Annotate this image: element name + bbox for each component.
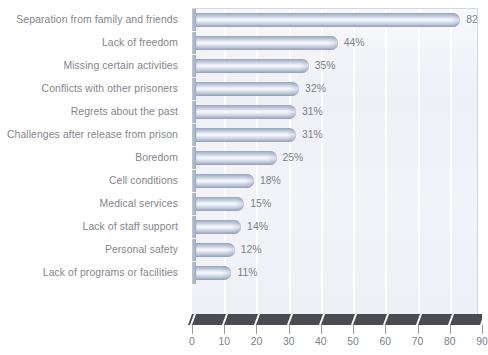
category-label: Medical services xyxy=(100,192,178,215)
bar-row: 44% xyxy=(192,32,478,55)
category-label: Lack of staff support xyxy=(83,215,178,238)
bar xyxy=(196,36,338,50)
x-tick-label: 20 xyxy=(251,336,263,347)
bar xyxy=(196,13,460,27)
bar xyxy=(196,128,296,142)
bar-series: 82%44%35%32%31%31%25%18%15%14%12%11% xyxy=(192,9,477,314)
bar xyxy=(196,151,277,165)
category-label: Regrets about the past xyxy=(71,100,178,123)
bar xyxy=(196,59,309,73)
bar-value-label: 82% xyxy=(466,13,478,27)
category-axis-labels: Separation from family and friendsLack o… xyxy=(0,8,186,308)
bar-row: 12% xyxy=(192,239,478,262)
x-tick-label: 90 xyxy=(476,336,488,347)
x-tick-label: 60 xyxy=(380,336,392,347)
bar xyxy=(196,82,299,96)
category-label: Lack of freedom xyxy=(102,31,178,54)
bar-row: 14% xyxy=(192,216,478,239)
category-label: Boredom xyxy=(135,146,178,169)
bar-value-label: 25% xyxy=(283,151,304,165)
bar-value-label: 12% xyxy=(241,243,262,257)
bar-value-label: 31% xyxy=(302,128,323,142)
x-tick-label: 50 xyxy=(347,336,359,347)
category-label: Missing certain activities xyxy=(63,54,178,77)
baseplate-top xyxy=(188,314,482,330)
x-tick-label: 10 xyxy=(218,336,230,347)
bar-row: 82% xyxy=(192,9,478,32)
bar xyxy=(196,266,231,280)
bar-value-label: 18% xyxy=(260,174,281,188)
category-label: Challenges after release from prison xyxy=(7,123,178,146)
x-tick-label: 80 xyxy=(444,336,456,347)
bar-value-label: 35% xyxy=(315,59,336,73)
bar xyxy=(196,174,254,188)
bar-row: 11% xyxy=(192,262,478,285)
bar xyxy=(196,220,241,234)
x-tick-label: 70 xyxy=(412,336,424,347)
bar-value-label: 31% xyxy=(302,105,323,119)
x-tick-mark xyxy=(482,325,483,334)
category-label: Cell conditions xyxy=(109,169,178,192)
category-label: Separation from family and friends xyxy=(16,8,178,31)
category-label: Personal safety xyxy=(105,238,178,261)
bar xyxy=(196,105,296,119)
bar-row: 15% xyxy=(192,193,478,216)
plot-area: 82%44%35%32%31%31%25%18%15%14%12%11% xyxy=(192,8,478,314)
bar-row: 18% xyxy=(192,170,478,193)
category-label: Lack of programs or facilities xyxy=(43,261,178,284)
chart-screenshot: Separation from family and friendsLack o… xyxy=(0,0,488,355)
bar-row: 35% xyxy=(192,55,478,78)
axis-baseplate-3d xyxy=(188,314,482,330)
bar-row: 25% xyxy=(192,147,478,170)
bar-row: 32% xyxy=(192,78,478,101)
bar-value-label: 15% xyxy=(250,197,271,211)
bar-value-label: 11% xyxy=(237,266,257,280)
bar-row: 31% xyxy=(192,101,478,124)
bar-value-label: 44% xyxy=(344,36,365,50)
category-label: Conflicts with other prisoners xyxy=(42,77,178,100)
x-tick-label: 0 xyxy=(189,336,195,347)
x-tick-label: 30 xyxy=(283,336,295,347)
bar-value-label: 14% xyxy=(247,220,268,234)
bar-row: 31% xyxy=(192,124,478,147)
bar xyxy=(196,197,244,211)
bar xyxy=(196,243,235,257)
x-tick-label: 40 xyxy=(315,336,327,347)
bar-value-label: 32% xyxy=(305,82,326,96)
